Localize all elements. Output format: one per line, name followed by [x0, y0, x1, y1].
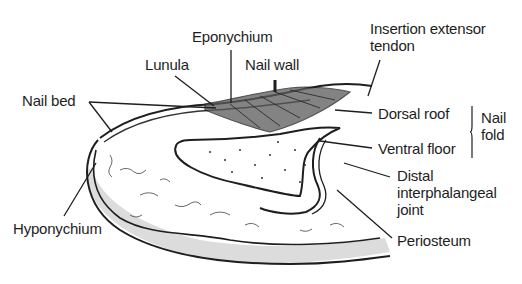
label-dip-joint-line3: joint — [397, 202, 424, 218]
label-dorsal-roof: Dorsal roof — [378, 106, 449, 122]
label-insertion-extensor-line2: tendon — [370, 38, 415, 54]
label-insertion-extensor-line1: Insertion extensor — [370, 21, 486, 37]
label-lunula: Lunula — [145, 57, 189, 73]
label-eponychium: Eponychium — [192, 29, 273, 45]
label-periosteum: Periosteum — [397, 233, 471, 249]
label-nail-fold-line1: Nail — [481, 110, 506, 126]
label-nail-wall: Nail wall — [245, 57, 299, 73]
distal-phalanx-bone — [175, 127, 340, 196]
label-dip-joint-line2: interphalangeal — [397, 185, 497, 201]
label-ventral-floor: Ventral floor — [378, 141, 455, 157]
label-hyponychium: Hyponychium — [13, 221, 102, 237]
proximal-nail-fold — [205, 87, 350, 132]
label-nail-bed: Nail bed — [22, 93, 75, 109]
nail-fold-brace — [470, 106, 472, 158]
label-nail-fold-line2: fold — [481, 127, 504, 143]
nail-anatomy-diagram: Eponychium Insertion extensor tendon Lun… — [0, 0, 522, 284]
label-dip-joint-line1: Distal — [397, 168, 433, 184]
